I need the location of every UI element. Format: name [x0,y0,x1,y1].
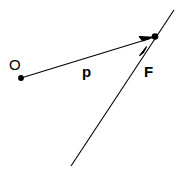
origin-label-o: O [9,57,21,72]
line-f-arrowhead [139,47,146,56]
vector-p-arrowhead [139,37,154,42]
diagram-canvas [0,0,179,169]
intersection-point-dot [152,33,159,40]
vector-diagram-figure: O p F [0,0,179,169]
line-label-f: F [144,64,153,79]
origin-point-dot [18,75,24,81]
vector-label-p: p [82,64,91,79]
line-f-stroke [71,10,174,166]
